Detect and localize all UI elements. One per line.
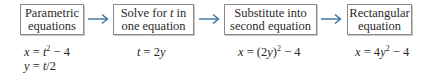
step-box-parametric-equations: Parametric equations [20, 4, 84, 35]
step-label-line2: one equation [121, 20, 185, 33]
step-box-solve-for-t: Solve for t in one equation [113, 4, 194, 35]
step-box-substitute: Substitute into second equation [224, 4, 317, 35]
right-arrow-icon [87, 13, 109, 25]
step-label-line2: equations [28, 20, 76, 33]
formula-solve-t: t = 2y [137, 45, 166, 59]
right-arrow-icon [320, 13, 342, 25]
formula-parametric: x = t2 − 4 y = t/2 [24, 45, 70, 73]
step-label-line2: second equation [230, 20, 311, 33]
step-label-line1: Rectangular [349, 7, 409, 20]
formula-rectangular: x = 4y2 − 4 [355, 45, 409, 59]
formula-y: y = t/2 [24, 59, 70, 73]
formula-substitute: x = (2y)2 − 4 [238, 45, 301, 59]
right-arrow-icon [198, 13, 220, 25]
formula-x: x = t2 − 4 [24, 45, 70, 59]
step-label-line1: Substitute into [234, 7, 307, 20]
step-box-rectangular-equation: Rectangular equation [347, 4, 412, 35]
step-label-line2: equation [358, 20, 401, 33]
step-label-line1: Parametric [25, 7, 79, 20]
step-label-line1: Solve for t in [121, 7, 187, 20]
